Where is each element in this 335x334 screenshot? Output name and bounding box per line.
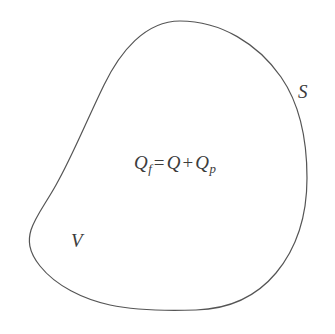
equation-rhs-second-subscript: p [209,161,216,176]
volume-label-v: V [71,231,83,250]
figure-canvas: S V Qf=Q+Qp [0,0,335,334]
equation-equals-sign: = [152,152,167,173]
equation-rhs-second-symbol: Q [195,152,209,173]
equation-rhs-first-symbol: Q [167,152,181,173]
equation-lhs-symbol: Q [134,152,148,173]
charge-equation: Qf=Q+Qp [134,153,216,176]
surface-label-s: S [298,82,308,101]
equation-plus-sign: + [181,152,196,173]
